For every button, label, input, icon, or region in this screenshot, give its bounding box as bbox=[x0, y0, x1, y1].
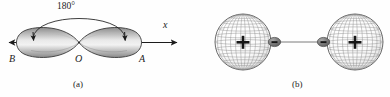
caption-panel-b: (b) bbox=[292, 80, 303, 89]
point-label-o: O bbox=[75, 54, 82, 64]
panel-a-graphic bbox=[9, 19, 177, 58]
caption-panel-a: (a) bbox=[73, 80, 83, 89]
panel-b-graphic bbox=[215, 12, 383, 72]
orbital-lobe-left bbox=[17, 28, 80, 58]
angle-arrow-left bbox=[33, 32, 34, 41]
x-axis-label: x bbox=[163, 20, 167, 30]
angle-label: 180° bbox=[57, 2, 75, 12]
angle-arrow-right bbox=[125, 32, 126, 41]
figure-svg bbox=[0, 0, 390, 97]
orbital-lobe-right bbox=[79, 28, 142, 58]
point-label-a: A bbox=[139, 54, 145, 64]
point-label-b: B bbox=[9, 54, 15, 64]
minus-icon-right bbox=[321, 41, 327, 43]
origin-marker bbox=[78, 42, 80, 44]
minus-icon-left bbox=[272, 41, 278, 43]
figure-container: 180° x B O A (a) (b) bbox=[0, 0, 390, 97]
